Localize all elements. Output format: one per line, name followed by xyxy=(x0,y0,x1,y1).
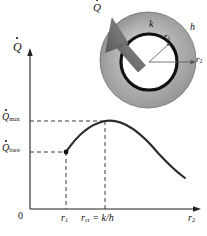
y-tick-qmax: Qmax xyxy=(2,112,20,122)
inset-inner-radius-label: r1 xyxy=(164,32,170,42)
bare-value-point xyxy=(64,150,69,155)
inset-outer-radius-subscript: 2 xyxy=(200,58,203,64)
inset-heat-flux-label: Q xyxy=(93,2,101,13)
y-tick-qmax-symbol: Q xyxy=(2,112,9,122)
inset-heat-flux-symbol: Q xyxy=(93,2,101,13)
y-tick-qbare: Qbare xyxy=(2,143,20,153)
x-axis-arrowhead xyxy=(193,206,201,211)
y-tick-qmax-subscript: max xyxy=(9,115,20,122)
x-axis-label-subscript: 2 xyxy=(192,216,195,223)
y-axis-label: Q xyxy=(13,41,22,53)
y-tick-qbare-symbol: Q xyxy=(2,143,9,153)
figure-canvas: Q Qmax Qbare 0 r1 rcr = k/h r2 Q k h r1 … xyxy=(0,0,207,236)
x-tick-rcr: rcr = k/h xyxy=(81,213,114,223)
origin-label: 0 xyxy=(18,211,23,221)
x-tick-r1: r1 xyxy=(61,213,68,223)
x-tick-r1-subscript: 1 xyxy=(65,216,68,223)
inset-convection-label: h xyxy=(190,22,195,32)
x-tick-rcr-expression: = k/h xyxy=(90,212,114,223)
inset-outer-radius-label: r2 xyxy=(196,55,202,65)
y-axis-label-symbol: Q xyxy=(13,41,22,53)
plot-graphic xyxy=(0,0,207,236)
inset-conductivity-label: k xyxy=(149,19,153,29)
x-axis-label: r2 xyxy=(188,213,195,223)
heat-transfer-curve xyxy=(66,121,185,178)
y-tick-qbare-subscript: bare xyxy=(9,146,20,153)
inset-inner-radius-subscript: 1 xyxy=(168,35,171,41)
y-axis-arrowhead xyxy=(27,48,32,56)
